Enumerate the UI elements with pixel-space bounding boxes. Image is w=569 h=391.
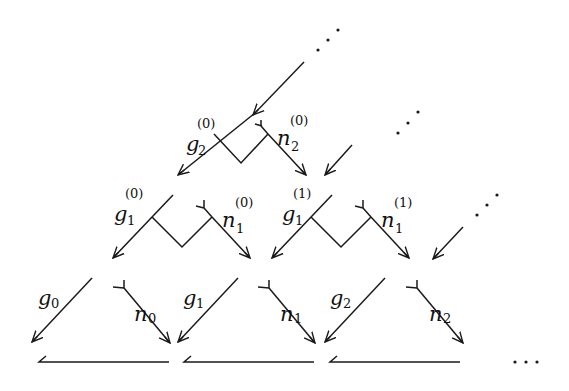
label-g2-0-sub: 2 xyxy=(198,144,206,157)
label-g0-sub: 0 xyxy=(51,297,59,310)
label-n1-1-base: n xyxy=(381,210,395,231)
label-g0-base: g xyxy=(38,288,51,309)
label-g2-0-sup: (0) xyxy=(197,117,215,130)
incoming-arrow-row3 xyxy=(433,227,463,259)
label-g1-1-base: g xyxy=(282,204,295,225)
label-n2-sub: 2 xyxy=(443,312,451,325)
label-n2-0-base: n xyxy=(277,128,291,149)
diagram-canvas: g 2 (0) n 2 (0) g 1 (0) n 1 (0) g 1 (1) … xyxy=(0,0,569,391)
label-n2-0-sub: 2 xyxy=(291,140,299,153)
label-n1-1-sup: (1) xyxy=(394,196,412,209)
diagram-lines xyxy=(0,0,569,391)
label-g1-base: g xyxy=(183,288,196,309)
label-n1-0-sub: 1 xyxy=(236,222,244,235)
label-n2-base: n xyxy=(429,304,443,325)
incoming-arrow-top xyxy=(253,62,304,115)
label-n2-0-sup: (0) xyxy=(290,114,308,127)
label-g1-0-sup: (0) xyxy=(125,187,143,200)
label-g2-sub: 2 xyxy=(343,297,351,310)
continuation-dots xyxy=(316,28,538,363)
label-g2-base: g xyxy=(330,288,343,309)
label-g1-0-sub: 1 xyxy=(127,214,135,227)
label-n0-sub: 0 xyxy=(148,312,156,325)
label-n1-sub: 1 xyxy=(294,312,302,325)
label-g1-sub: 1 xyxy=(196,297,204,310)
label-n1-0-sup: (0) xyxy=(235,196,253,209)
label-n1-base: n xyxy=(280,304,294,325)
label-n0-base: n xyxy=(134,304,148,325)
label-n1-0-base: n xyxy=(222,210,236,231)
label-g1-1-sup: (1) xyxy=(293,187,311,200)
label-g1-1-sub: 1 xyxy=(295,214,303,227)
incoming-arrow-row2 xyxy=(325,145,352,175)
label-n1-1-sub: 1 xyxy=(395,222,403,235)
label-g1-0-base: g xyxy=(114,204,127,225)
